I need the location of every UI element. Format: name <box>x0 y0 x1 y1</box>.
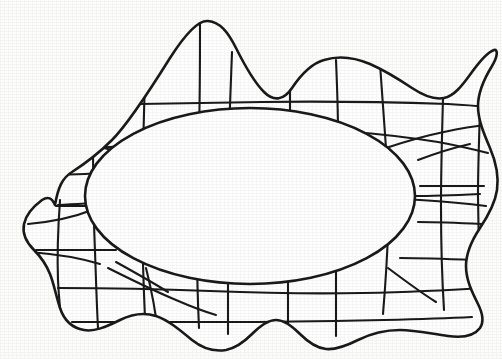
figure-canvas: Irregular closed region with inscribed e… <box>0 0 502 359</box>
inner-ellipse-shape <box>85 108 415 284</box>
blob-grid-ellipse-drawing: Irregular closed region with inscribed e… <box>0 0 502 359</box>
